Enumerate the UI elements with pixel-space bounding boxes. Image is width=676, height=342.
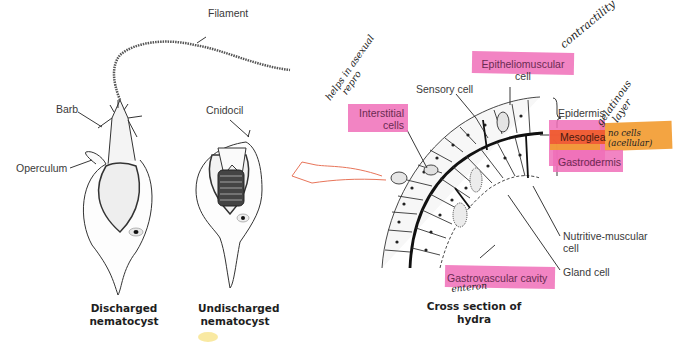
label-gland-cell: Gland cell: [563, 266, 610, 278]
caption-discharged: Discharged nematocyst: [88, 302, 160, 328]
label-epitheliomuscular-cell: Epitheliomuscular cell: [477, 58, 569, 82]
label-mesoglea: Mesoglea: [560, 131, 606, 143]
label-operculum: Operculum: [16, 162, 67, 174]
caption-cross-section: Cross section of hydra: [408, 300, 540, 326]
label-sensory-cell: Sensory cell: [416, 83, 473, 95]
yellow-highlight-spot: [198, 332, 218, 342]
label-gastrodermis: Gastrodermis: [558, 156, 621, 168]
label-cnidocil: Cnidocil: [206, 104, 243, 116]
note-no-cells: no cells (acellular): [608, 128, 652, 148]
caption-undischarged: Undischarged nematocyst: [198, 302, 272, 328]
label-barb: Barb: [56, 103, 78, 115]
undischarged-nematocyst-drawing: [196, 130, 262, 288]
label-interstitial-cells: Interstitial cells: [352, 107, 404, 131]
label-nutritive-muscular-cell: Nutritive-muscular cell: [563, 230, 648, 254]
label-filament: Filament: [208, 7, 248, 19]
hand-drawn-arrow: [292, 162, 386, 183]
